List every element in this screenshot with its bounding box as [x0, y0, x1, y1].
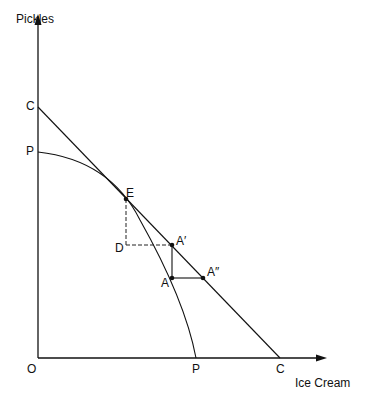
- label-E: E: [126, 187, 134, 199]
- diagram-canvas: [0, 0, 381, 399]
- label-C-x: C: [276, 363, 285, 375]
- point-A-double-prime: [201, 276, 206, 281]
- point-A-prime: [170, 243, 175, 248]
- label-A-prime: A′: [176, 235, 186, 247]
- point-A: [170, 276, 175, 281]
- label-P-x: P: [192, 363, 200, 375]
- label-C-y: C: [26, 100, 35, 112]
- label-D: D: [115, 242, 124, 254]
- x-axis-arrow-icon: [316, 355, 327, 362]
- consumption-line-CC: [38, 107, 280, 358]
- label-A-double-prime: A″: [207, 266, 219, 278]
- label-P-y: P: [26, 145, 34, 157]
- origin-label: O: [27, 363, 36, 375]
- x-axis-label: Ice Cream: [295, 377, 350, 389]
- label-A: A: [161, 277, 169, 289]
- y-axis-label: Pickles: [16, 13, 54, 25]
